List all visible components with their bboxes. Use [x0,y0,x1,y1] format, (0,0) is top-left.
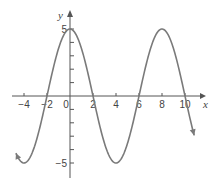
x-tick-label: 8 [159,99,165,110]
y-axis-label: y [57,9,63,21]
x-tick-label: 0 [63,99,69,110]
axes [12,10,206,178]
cosine-graph: −4−20246810−55 x y [0,0,216,186]
x-tick-label: 4 [113,99,119,110]
y-axis-arrow-icon [67,10,73,17]
x-tick-label: −2 [41,99,53,110]
x-tick-label: −4 [18,99,30,110]
x-axis-label: x [202,98,208,110]
y-tick-label: −5 [56,158,68,169]
